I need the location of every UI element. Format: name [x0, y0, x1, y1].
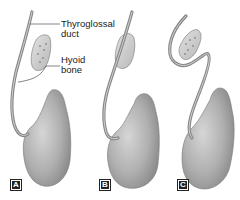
panel-c — [170, 16, 234, 189]
diagram-svg — [0, 0, 240, 200]
thyroid-gland-c — [182, 88, 234, 189]
panel-badge-b: B — [99, 179, 111, 191]
hyoid-bone-a — [31, 35, 51, 71]
thyroglossal-duct-diagram: Thyroglossal duct Hyoid bone A B C — [0, 0, 240, 200]
panel-badge-a: A — [10, 179, 22, 191]
hyoid-bone-c — [179, 30, 201, 60]
duct-a — [12, 12, 32, 136]
thyroid-gland-b — [107, 94, 159, 189]
thyroid-gland-a — [23, 90, 71, 187]
panel-badge-c: C — [177, 179, 189, 191]
thyroglossal-duct-label: Thyroglossal duct — [61, 19, 115, 39]
duct-label-line2: duct — [61, 29, 115, 39]
bone-label-line2: bone — [61, 65, 85, 75]
hyoid-bone-label: Hyoid bone — [61, 55, 85, 75]
